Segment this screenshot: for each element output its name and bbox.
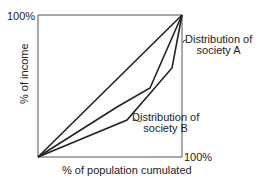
x-right-tick: 100% — [184, 152, 212, 163]
label-society-b: Distribution of society B — [132, 112, 199, 134]
y-axis-label: % of income — [18, 43, 30, 104]
lorenz-diagram — [0, 0, 264, 182]
y-top-tick: 100% — [7, 11, 35, 22]
label-society-a: Distribution of society A — [185, 34, 252, 56]
x-axis-label: % of population cumulated — [62, 165, 192, 176]
equality-line — [38, 15, 182, 157]
